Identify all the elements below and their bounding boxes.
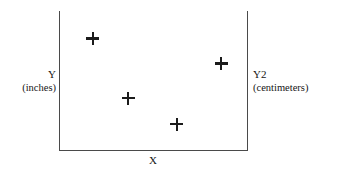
y2-axis-label-group: Y2 (centimeters) (253, 68, 308, 94)
data-point-marker (170, 118, 183, 131)
plot-area (60, 11, 246, 150)
y-axis-line (59, 11, 60, 151)
x-axis-line (59, 150, 247, 151)
data-point-marker (122, 92, 135, 105)
x-axis-label: X (0, 154, 306, 167)
data-point-marker (215, 57, 228, 70)
data-point-marker (86, 32, 99, 45)
y-axis-label-group: Y (inches) (22, 68, 56, 94)
x-axis-label-group: X (0, 154, 306, 167)
y2-axis-label: Y2 (253, 68, 308, 81)
y-axis-units-label: (inches) (22, 81, 56, 94)
scatter-plot-figure: Y (inches) Y2 (centimeters) X (0, 0, 338, 178)
y-axis-label: Y (22, 68, 56, 81)
y2-axis-units-label: (centimeters) (253, 81, 308, 94)
y2-axis-line (247, 11, 248, 151)
